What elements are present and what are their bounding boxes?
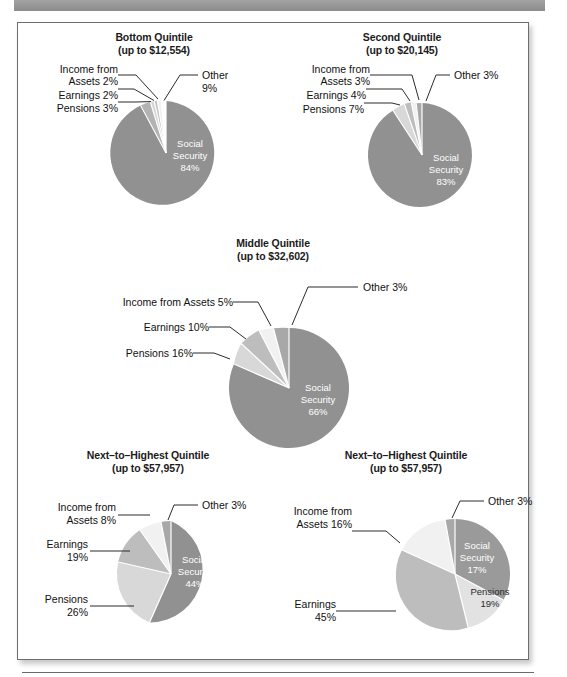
label-earnings: Earnings 10% [89,321,209,334]
chart-title: Bottom Quintile [84,31,224,44]
label-assets-line2: Assets 2% [28,75,118,88]
chart-subtitle: (up to $20,145) [332,44,472,57]
label-earnings-line2: 45% [274,611,336,624]
label-assets: Income from Assets 5% [73,296,233,309]
slice-label-social-security-line1: Social [305,382,331,393]
slice-label-social-security-line2: Security [460,552,495,563]
label-assets-line1: Income from [274,63,370,76]
slice-label-social-security-line3: 83% [436,176,456,187]
label-assets-line2: Assets 8% [18,514,116,527]
pie-chart-second-quintile: Second Quintile (up to $20,145) Social [274,23,530,233]
leader-line-earnings [209,327,246,339]
pie-svg: Social Security 66% [18,231,530,447]
leader-line-other [168,505,198,520]
pie-chart-highest-quintile: Next–to–Highest Quintile (up to $57,957)… [274,443,530,659]
pie-chart-next-to-highest-quintile: Next–to–Highest Quintile (up to $57,957) [18,443,274,659]
slice-label-social-security-line2: Security [178,566,213,577]
label-earnings: Earnings 4% [274,89,366,102]
label-assets-line2: Assets 3% [274,75,370,88]
leader-line-pensions [364,103,400,105]
pie-svg: Social Security 17% Pensions 19% [274,443,530,659]
leader-line-earnings [366,89,410,101]
slice-label-social-security-line3: 84% [180,162,200,173]
leader-line-assets [118,75,158,99]
label-assets-line1: Income from [28,63,118,76]
chart-subtitle: (up to $57,957) [326,462,486,475]
label-pensions: Pensions 7% [274,103,364,116]
slice-label-social-security-line3: 66% [308,406,328,417]
slice-label-social-security-line2: Security [429,164,464,175]
leader-line-pensions [193,353,230,359]
label-pensions: Pensions 3% [24,102,118,115]
leader-line-assets [370,75,419,100]
slice-label-social-security-line1: Social [177,138,203,149]
label-other-line2: 9% [202,82,217,95]
label-earnings-line2: 19% [18,551,88,564]
label-pensions-line2: 26% [18,606,88,619]
chart-subtitle: (up to $57,957) [68,462,228,475]
slice-label-social-security-line1: Social [464,540,490,551]
leader-line-earnings [118,89,154,101]
label-assets-line1: Income from [18,501,116,514]
label-pensions: Pensions 16% [73,347,193,360]
leader-line-other [292,287,358,325]
leader-line-assets [352,531,400,543]
leader-line-other [164,75,198,101]
label-other: Other 3% [488,495,532,508]
slice-label-pensions-line1: Pensions [470,586,509,597]
slice-label-social-security-line3: 17% [467,564,487,575]
slice-label-social-security-line3: 44% [185,578,205,589]
slice-label-social-security-line1: Social [433,152,459,163]
leader-line-other [426,75,450,101]
label-other: Other 3% [202,499,246,512]
bottom-horizontal-rule [22,672,534,673]
slice-label-pensions-line2: 19% [480,598,500,609]
leader-line-other [452,501,484,518]
label-other: Other 3% [363,281,407,294]
pie-chart-middle-quintile: Middle Quintile (up to $32,602) Social [18,231,530,447]
chart-title: Middle Quintile [203,237,343,250]
leader-line-assets [233,302,271,326]
figure-panel: Bottom Quintile (up to $12,554) [17,22,529,660]
label-earnings-line1: Earnings [18,538,88,551]
slice-label-social-security-line1: Social [182,554,208,565]
top-gray-band [14,0,545,11]
label-assets-line1: Income from [274,505,352,518]
label-other-line1: Other [202,69,228,82]
slice-label-social-security-line2: Security [301,394,336,405]
label-earnings: Earnings 2% [24,89,118,102]
pie-chart-bottom-quintile: Bottom Quintile (up to $12,554) [18,23,274,233]
label-earnings-line1: Earnings [274,598,336,611]
chart-subtitle: (up to $12,554) [84,44,224,57]
label-pensions-line1: Pensions [18,593,88,606]
chart-subtitle: (up to $32,602) [203,250,343,263]
chart-title: Second Quintile [332,31,472,44]
label-other: Other 3% [454,69,498,82]
slice-label-social-security-line2: Security [173,150,208,161]
label-assets-line2: Assets 16% [274,518,352,531]
chart-title: Next–to–Highest Quintile [68,449,228,462]
chart-title: Next–to–Highest Quintile [326,449,486,462]
